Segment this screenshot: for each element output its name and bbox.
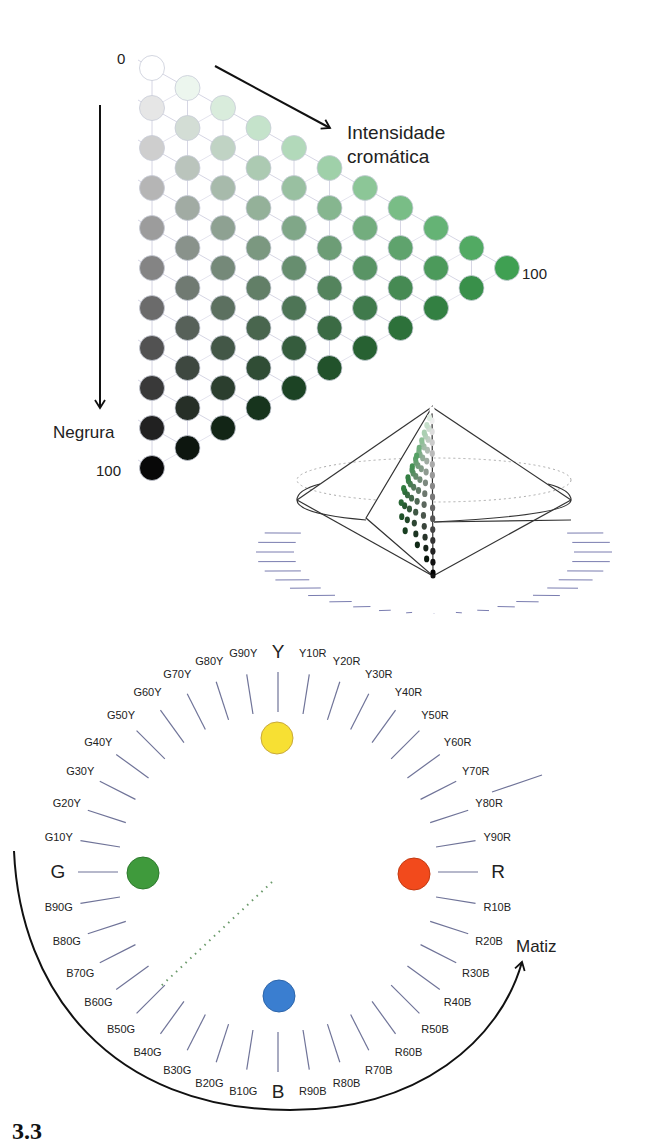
hue-label-y: Y [272,641,285,662]
hue-label-r80b: R80B [333,1077,361,1089]
hue-label-y40r: Y40R [395,686,423,698]
hue-label-r50b: R50B [421,1023,449,1035]
hue-label-g40y: G40Y [84,736,113,748]
hue-label-g: G [51,861,66,882]
axis-label-chromatic-line2: cromática [347,146,430,167]
primary-red-dot [398,858,430,890]
hue-label-b40g: B40G [133,1046,161,1058]
hue-label-b20g: B20G [195,1077,223,1089]
hue-label-r10b: R10B [484,901,512,913]
chromatic-intensity-arrow [215,66,330,128]
hue-label-g60y: G60Y [133,686,162,698]
hue-label-g10y: G10Y [45,831,74,843]
hue-label-y90r: Y90R [484,831,512,843]
hue-label-g50y: G50Y [107,709,136,721]
hue-label-r60b: R60B [395,1046,423,1058]
hue-label-g80y: G80Y [195,655,224,667]
double-cone-diagram [256,407,612,614]
hue-direction-arc [14,851,522,1110]
triangle-label-right: 100 [522,265,547,282]
axis-label-chromatic-line1: Intensidade [347,122,445,143]
axis-label-hue: Matiz [516,937,557,956]
hue-label-b50g: B50G [107,1023,135,1035]
hue-label-r90b: R90B [299,1085,327,1097]
hue-label-y60r: Y60R [444,736,472,748]
hue-label-b10g: B10G [229,1085,257,1097]
hue-label-r: R [491,861,505,882]
hue-label-b90g: B90G [45,901,73,913]
hue-label-g20y: G20Y [53,797,82,809]
hue-label-y80r: Y80R [475,797,503,809]
hue-radius-dotted-line [160,882,272,987]
hue-label-b80g: B80G [53,935,81,947]
figure-number: 3.3 [12,1118,42,1144]
hue-label-b30g: B30G [163,1064,191,1076]
hue-label-g90y: G90Y [229,647,258,659]
hue-label-r30b: R30B [462,967,490,979]
triangle-label-top: 0 [117,50,125,67]
hue-label-y30r: Y30R [365,668,393,680]
triangle-label-bottom: 100 [96,462,121,479]
hue-label-b60g: B60G [84,996,112,1008]
hue-label-b: B [272,1081,285,1102]
ncs-color-system-diagram: 0 100 100 Intensidade cromática Negrura … [0,0,657,1144]
hue-label-g30y: G30Y [66,765,95,777]
hue-label-y70r: Y70R [462,765,490,777]
hue-circle: YY10RY20RY30RY40RY50RY60RY70RY80RY90RRR1… [14,641,557,1110]
hue-label-g70y: G70Y [163,668,192,680]
axis-label-blackness: Negrura [53,423,115,442]
hue-label-y10r: Y10R [299,647,327,659]
hue-label-r70b: R70B [365,1064,393,1076]
hue-label-r20b: R20B [475,935,503,947]
hue-label-y50r: Y50R [421,709,449,721]
hue-label-r40b: R40B [444,996,472,1008]
primary-yellow-dot [261,722,293,754]
hue-label-b70g: B70G [66,967,94,979]
primary-green-dot [127,857,159,889]
primary-blue-dot [263,980,295,1012]
hue-label-y20r: Y20R [333,655,361,667]
